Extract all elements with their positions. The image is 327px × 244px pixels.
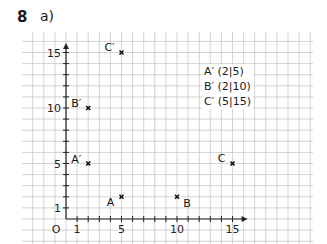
point-label: B′ [71,97,82,110]
coordinate-list: A′ (2|5) B′ (2|10) C′ (5|15) [202,64,253,109]
point-label: A [107,196,115,209]
y-tick-label: 10 [47,102,61,115]
y-tick-label: 15 [47,47,61,60]
point-a-prime: A′ [71,153,90,166]
coord-c-prime: C′ (5|15) [204,94,251,109]
x-tick-label: 5 [118,223,125,236]
coordinate-system: O151015151015 ABCA′B′C′ [0,0,327,244]
point-label: C [218,152,226,165]
point-label: B [183,197,191,210]
point-label: C′ [104,41,115,54]
origin-label: O [52,223,61,236]
y-tick-label: 5 [54,158,61,171]
x-tick-label: 15 [226,223,240,236]
coord-a-prime: A′ (2|5) [204,64,251,79]
coord-b-prime: B′ (2|10) [204,79,251,94]
x-tick-label: 1 [74,223,81,236]
point-label: A′ [71,153,82,166]
point-b-prime: B′ [71,97,90,110]
x-tick-label: 10 [170,223,184,236]
point-c-prime: C′ [104,41,123,55]
y-tick-label: 1 [54,202,61,215]
